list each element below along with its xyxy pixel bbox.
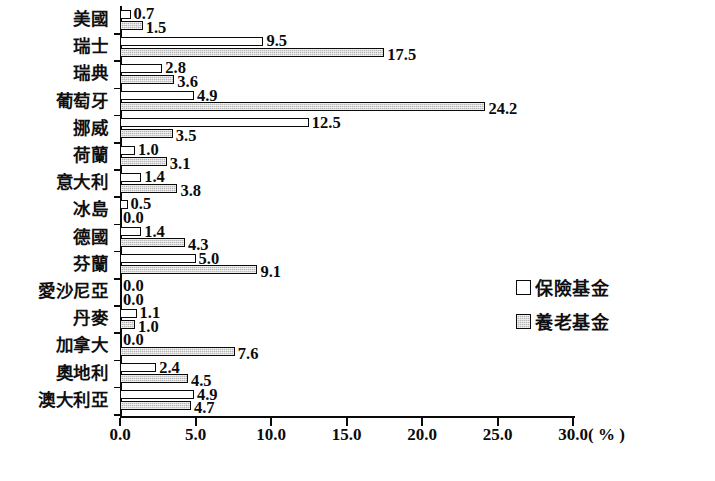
y-axis-tick bbox=[114, 33, 120, 35]
bar-pension-fund bbox=[120, 21, 143, 30]
bar-row: 9.517.5 bbox=[120, 33, 575, 60]
bar-pension-fund bbox=[120, 157, 167, 166]
legend-label-pension-fund: 養老基金 bbox=[535, 308, 609, 334]
bar-pension-fund bbox=[120, 184, 177, 193]
category-label: 奧地利 bbox=[56, 360, 109, 387]
bar-pension-fund bbox=[120, 238, 185, 247]
category-label: 加拿大 bbox=[56, 332, 109, 359]
y-axis-tick bbox=[114, 60, 120, 62]
bar-row: 4.924.2 bbox=[120, 88, 575, 115]
bar-row: 0.07.6 bbox=[120, 332, 575, 359]
category-label: 荷蘭 bbox=[73, 142, 108, 169]
bar-value-label: 12.5 bbox=[312, 115, 341, 132]
bar-insurance-fund bbox=[120, 309, 137, 318]
y-axis-tick bbox=[114, 142, 120, 144]
category-label: 意大利 bbox=[56, 169, 109, 196]
legend-swatch-icon-insurance-fund bbox=[516, 280, 531, 295]
bar-pension-fund bbox=[120, 48, 384, 57]
y-axis-tick bbox=[114, 251, 120, 253]
bar-pension-fund bbox=[120, 320, 135, 329]
category-label: 芬蘭 bbox=[73, 251, 108, 278]
bar-row: 0.50.0 bbox=[120, 196, 575, 223]
category-label: 冰島 bbox=[73, 196, 108, 223]
bar-pension-fund bbox=[120, 374, 188, 383]
category-label: 瑞士 bbox=[73, 33, 108, 60]
bar-pension-fund bbox=[120, 102, 485, 111]
x-axis-unit-label: ( % ) bbox=[588, 425, 625, 445]
bar-row: 0.00.0 bbox=[120, 278, 575, 305]
bar-insurance-fund bbox=[120, 173, 141, 182]
y-axis-tick bbox=[114, 278, 120, 280]
legend-swatch-icon-pension-fund bbox=[516, 314, 531, 329]
x-axis-tick-label: 15.0 bbox=[317, 425, 377, 445]
y-axis-tick bbox=[114, 115, 120, 117]
category-label: 愛沙尼亞 bbox=[38, 278, 108, 305]
bar-insurance-fund bbox=[120, 363, 156, 372]
category-label: 瑞典 bbox=[73, 60, 108, 87]
bar-row: 2.83.6 bbox=[120, 60, 575, 87]
bar-row: 2.44.5 bbox=[120, 360, 575, 387]
y-axis-tick bbox=[114, 332, 120, 334]
bar-insurance-fund bbox=[120, 37, 263, 46]
bar-value-label: 4.7 bbox=[194, 400, 215, 417]
y-axis-tick bbox=[114, 196, 120, 198]
bar-insurance-fund bbox=[120, 64, 162, 73]
category-label: 挪威 bbox=[73, 115, 108, 142]
category-axis-labels: 美國瑞士瑞典葡萄牙挪威荷蘭意大利冰島德國芬蘭愛沙尼亞丹麥加拿大奧地利澳大利亞 bbox=[0, 6, 114, 416]
y-axis-tick bbox=[114, 387, 120, 389]
bar-row: 1.44.3 bbox=[120, 224, 575, 251]
bar-pension-fund bbox=[120, 347, 235, 356]
category-label: 德國 bbox=[73, 224, 108, 251]
horizontal-bar-chart: 美國瑞士瑞典葡萄牙挪威荷蘭意大利冰島德國芬蘭愛沙尼亞丹麥加拿大奧地利澳大利亞 0… bbox=[0, 0, 715, 481]
y-axis-tick bbox=[114, 224, 120, 226]
bar-insurance-fund bbox=[120, 390, 194, 399]
bar-pension-fund bbox=[120, 129, 173, 138]
bar-row: 0.71.5 bbox=[120, 6, 575, 33]
y-axis-tick bbox=[114, 88, 120, 90]
bar-row: 1.11.0 bbox=[120, 305, 575, 332]
bar-insurance-fund bbox=[120, 146, 135, 155]
category-label: 葡萄牙 bbox=[56, 88, 109, 115]
bar-insurance-fund bbox=[120, 91, 194, 100]
legend-item-insurance-fund: 保險基金 bbox=[516, 272, 706, 302]
category-label: 澳大利亞 bbox=[38, 387, 108, 414]
y-axis-tick bbox=[114, 305, 120, 307]
x-axis-line bbox=[120, 416, 575, 418]
bar-pension-fund bbox=[120, 265, 257, 274]
category-label: 美國 bbox=[73, 6, 108, 33]
bar-insurance-fund bbox=[120, 227, 141, 236]
bar-row: 1.43.8 bbox=[120, 169, 575, 196]
bar-insurance-fund bbox=[120, 10, 131, 19]
bar-row: 4.94.7 bbox=[120, 387, 575, 414]
x-axis-tick-label: 20.0 bbox=[392, 425, 452, 445]
bar-row: 1.03.1 bbox=[120, 142, 575, 169]
category-label: 丹麥 bbox=[73, 305, 108, 332]
bar-insurance-fund bbox=[120, 254, 196, 263]
y-axis-tick bbox=[114, 360, 120, 362]
chart-legend: 保險基金 養老基金 bbox=[516, 272, 706, 340]
x-axis-tick-label: 0.0 bbox=[90, 425, 150, 445]
legend-label-insurance-fund: 保險基金 bbox=[535, 274, 609, 300]
bar-insurance-fund bbox=[120, 118, 309, 127]
bar-pension-fund bbox=[120, 75, 174, 84]
bar-pension-fund bbox=[120, 401, 191, 410]
bar-row: 12.53.5 bbox=[120, 115, 575, 142]
plot-area: 0.71.59.517.52.83.64.924.212.53.51.03.11… bbox=[120, 6, 575, 422]
x-axis-tick-label: 25.0 bbox=[468, 425, 528, 445]
x-axis-tick-label: 5.0 bbox=[166, 425, 226, 445]
x-axis-tick-label: 10.0 bbox=[241, 425, 301, 445]
y-axis-tick bbox=[114, 169, 120, 171]
y-axis-tick bbox=[114, 414, 120, 416]
bar-row: 5.09.1 bbox=[120, 251, 575, 278]
legend-item-pension-fund: 養老基金 bbox=[516, 306, 706, 336]
